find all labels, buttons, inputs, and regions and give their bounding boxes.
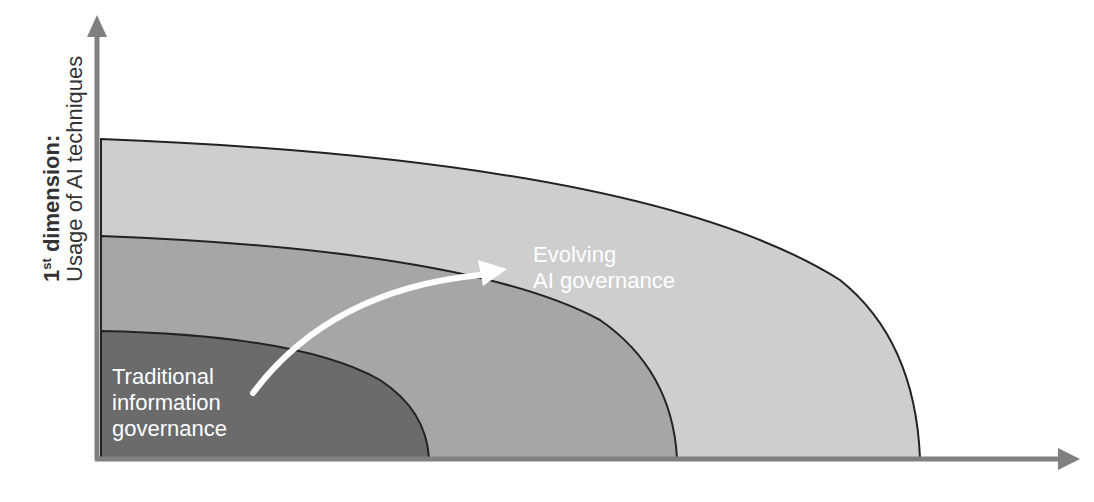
y-axis-arrowhead-icon: [87, 15, 107, 37]
x-axis-arrowhead-icon: [1058, 448, 1080, 470]
evolving-governance-label: Evolving AI governance: [533, 242, 675, 294]
traditional-governance-label: Traditional information governance: [112, 364, 227, 442]
